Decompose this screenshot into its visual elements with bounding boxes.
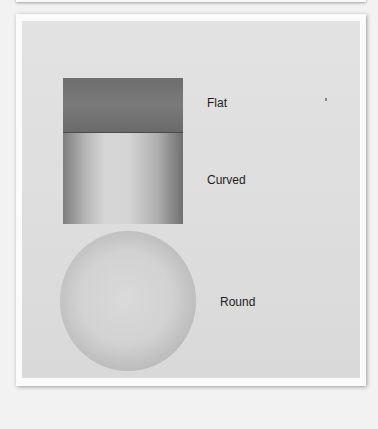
- label-flat: Flat: [207, 96, 227, 110]
- top-card-edge: [16, 0, 366, 2]
- flat-shading-band: [63, 78, 183, 133]
- curved-shading-band: [63, 133, 183, 224]
- image-frame: Flat Curved Round: [16, 14, 366, 386]
- shaded-rectangle: [63, 78, 183, 224]
- label-curved: Curved: [207, 173, 246, 187]
- round-shaded-circle: [60, 231, 196, 371]
- pencil-speck: [325, 98, 327, 101]
- paper-drawing: Flat Curved Round: [22, 21, 360, 378]
- label-round: Round: [220, 295, 255, 309]
